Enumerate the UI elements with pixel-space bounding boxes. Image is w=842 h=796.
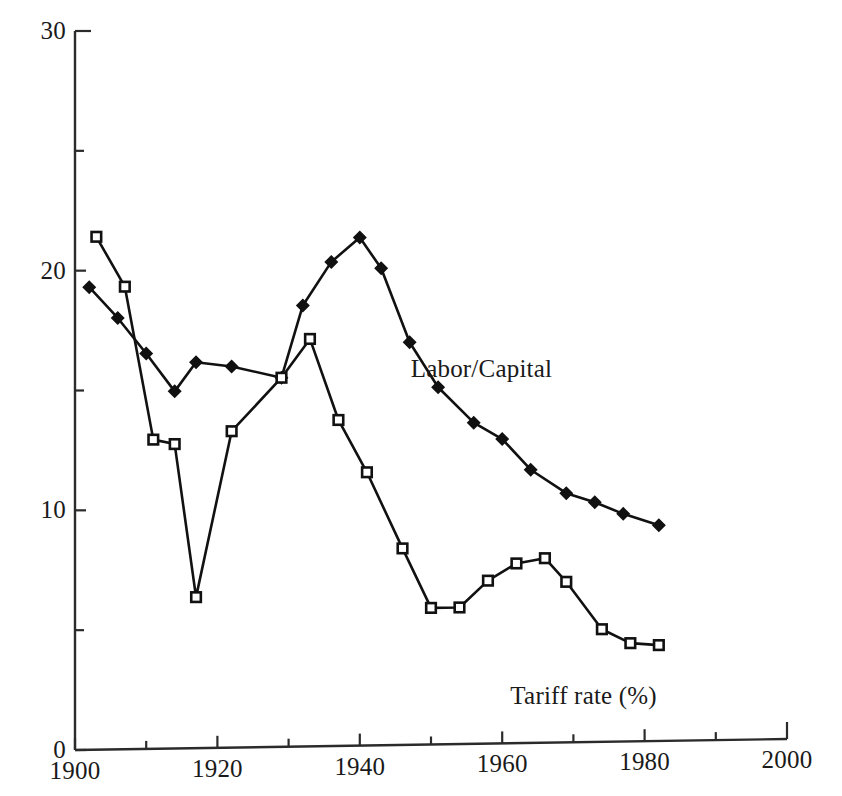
x-axis-tick-label: 2000 [727, 747, 842, 772]
data-point-marker-square [305, 334, 315, 344]
data-point-marker-diamond [653, 519, 665, 531]
data-point-marker-square [626, 638, 636, 648]
data-point-marker-square [92, 232, 102, 242]
data-point-marker-square [483, 576, 493, 586]
x-axis-tick-label: 1900 [15, 758, 135, 783]
data-point-marker-square [455, 603, 465, 613]
data-point-marker-square [426, 603, 436, 613]
data-point-marker-square [540, 553, 550, 563]
series-annotation-label: Tariff rate (%) [510, 683, 657, 708]
data-point-marker-diamond [589, 496, 601, 508]
data-point-marker-square [398, 544, 408, 554]
data-point-marker-square [277, 373, 287, 383]
data-point-marker-diamond [226, 361, 238, 373]
data-point-marker-square [170, 439, 180, 449]
y-axis-tick-label: 10 [0, 497, 66, 522]
chart-axes [75, 31, 787, 750]
data-point-marker-square [597, 624, 607, 634]
series-line [89, 238, 659, 526]
data-point-marker-square [512, 559, 522, 569]
chart-plot-area [0, 0, 842, 796]
data-point-marker-diamond [404, 336, 416, 348]
data-point-marker-square [227, 426, 237, 436]
chart-series-2 [92, 232, 664, 650]
data-point-marker-square [362, 467, 372, 477]
chart-series-group [83, 232, 665, 650]
data-point-marker-square [334, 415, 344, 425]
data-point-marker-square [561, 577, 571, 587]
data-point-marker-diamond [617, 508, 629, 520]
data-point-marker-square [149, 435, 159, 445]
chart-figure: 0102030 190019201940196019802000 Labor/C… [0, 0, 842, 796]
data-point-marker-square [120, 282, 130, 292]
y-axis-tick-label: 20 [0, 258, 66, 283]
x-axis-tick-label: 1980 [585, 749, 705, 774]
data-point-marker-square [191, 592, 201, 602]
x-axis-tick-label: 1920 [157, 756, 277, 781]
y-axis-tick-label: 30 [0, 18, 66, 43]
series-annotation-label: Labor/Capital [411, 356, 552, 381]
x-axis-tick-label: 1940 [300, 754, 420, 779]
data-point-marker-square [654, 640, 664, 650]
x-axis-tick-label: 1960 [442, 751, 562, 776]
